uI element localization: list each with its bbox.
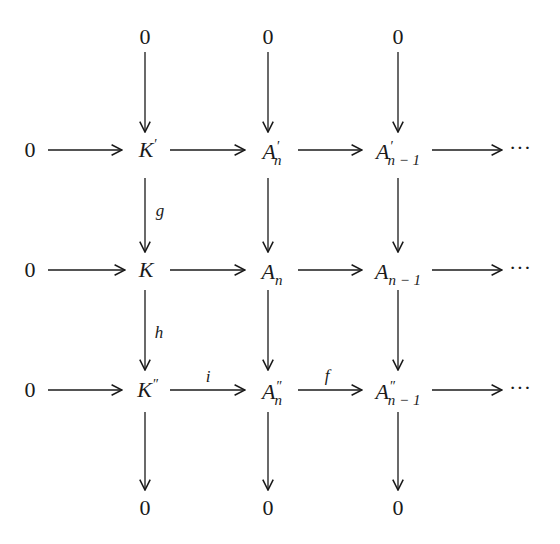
zero-bottom-3: 0 xyxy=(393,497,404,519)
zero-left-2: 0 xyxy=(25,259,36,281)
node-K-double-prime: K″ xyxy=(137,379,159,401)
zero-left-3: 0 xyxy=(25,379,36,401)
zero-left-1: 0 xyxy=(25,139,36,161)
zero-bottom-1: 0 xyxy=(140,497,151,519)
label-h: h xyxy=(155,323,164,343)
label-f: f xyxy=(325,366,330,386)
ellipsis-3: ··· xyxy=(509,377,531,399)
zero-top-1: 0 xyxy=(140,26,151,48)
node-A-n-1-prime: A′n − 1 xyxy=(376,141,420,163)
zero-top-2: 0 xyxy=(263,26,274,48)
zero-top-3: 0 xyxy=(393,26,404,48)
node-K-prime: K′ xyxy=(139,139,158,161)
label-i: i xyxy=(206,367,211,387)
ellipsis-1: ··· xyxy=(509,137,531,159)
node-A-n-double-prime: A″n xyxy=(262,381,282,403)
zero-bottom-2: 0 xyxy=(263,497,274,519)
label-g: g xyxy=(156,201,165,221)
node-A-n: An xyxy=(262,261,283,283)
node-A-n-1: An − 1 xyxy=(375,261,421,283)
node-K: K xyxy=(139,259,154,281)
node-A-n-prime: A′n xyxy=(262,141,281,163)
ellipsis-2: ··· xyxy=(509,257,531,279)
node-A-n-1-double-prime: A″n − 1 xyxy=(376,381,421,403)
